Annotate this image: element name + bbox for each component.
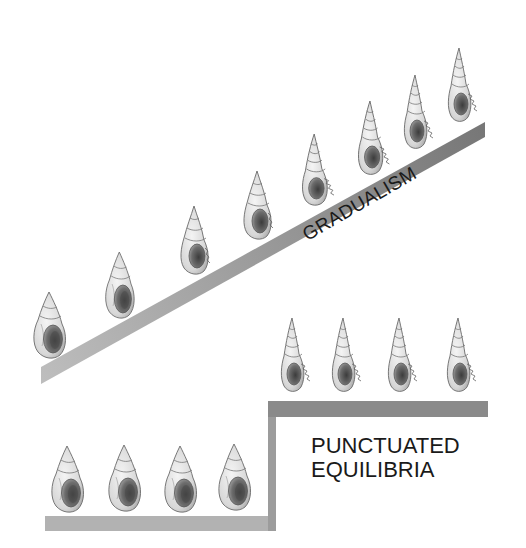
punctuated-upper-shell-4 bbox=[447, 318, 476, 391]
gradualism-group bbox=[34, 48, 485, 384]
gradualism-shell-8 bbox=[448, 48, 477, 121]
punctuated-lower-shell-2 bbox=[109, 445, 141, 511]
punctuated-equilibria-label: PUNCTUATED EQUILIBRIA bbox=[311, 434, 460, 482]
punctuated-step-riser bbox=[268, 401, 276, 531]
punctuated-group bbox=[45, 318, 488, 531]
gradualism-shell-5 bbox=[302, 134, 334, 205]
punctuated-label-line-2: EQUILIBRIA bbox=[311, 458, 460, 482]
gradualism-shell-1 bbox=[34, 292, 66, 358]
gradualism-shell-7 bbox=[404, 75, 433, 148]
gradualism-slope-band bbox=[41, 122, 485, 384]
punctuated-lower-shell-3 bbox=[165, 446, 197, 512]
gradualism-shell-6 bbox=[358, 101, 389, 174]
punctuated-label-line-1: PUNCTUATED bbox=[311, 434, 460, 458]
punctuated-upper-bar bbox=[268, 401, 488, 417]
punctuated-upper-shell-3 bbox=[388, 318, 417, 391]
gradualism-shell-4 bbox=[244, 171, 273, 239]
punctuated-lower-shell-4 bbox=[219, 444, 251, 510]
punctuated-lower-shell-1 bbox=[52, 446, 84, 512]
punctuated-upper-shell-1 bbox=[281, 318, 310, 391]
gradualism-shell-3 bbox=[181, 206, 210, 274]
punctuated-upper-shell-2 bbox=[332, 318, 361, 391]
gradualism-shell-2 bbox=[106, 252, 134, 318]
punctuated-lower-bar bbox=[45, 516, 276, 531]
